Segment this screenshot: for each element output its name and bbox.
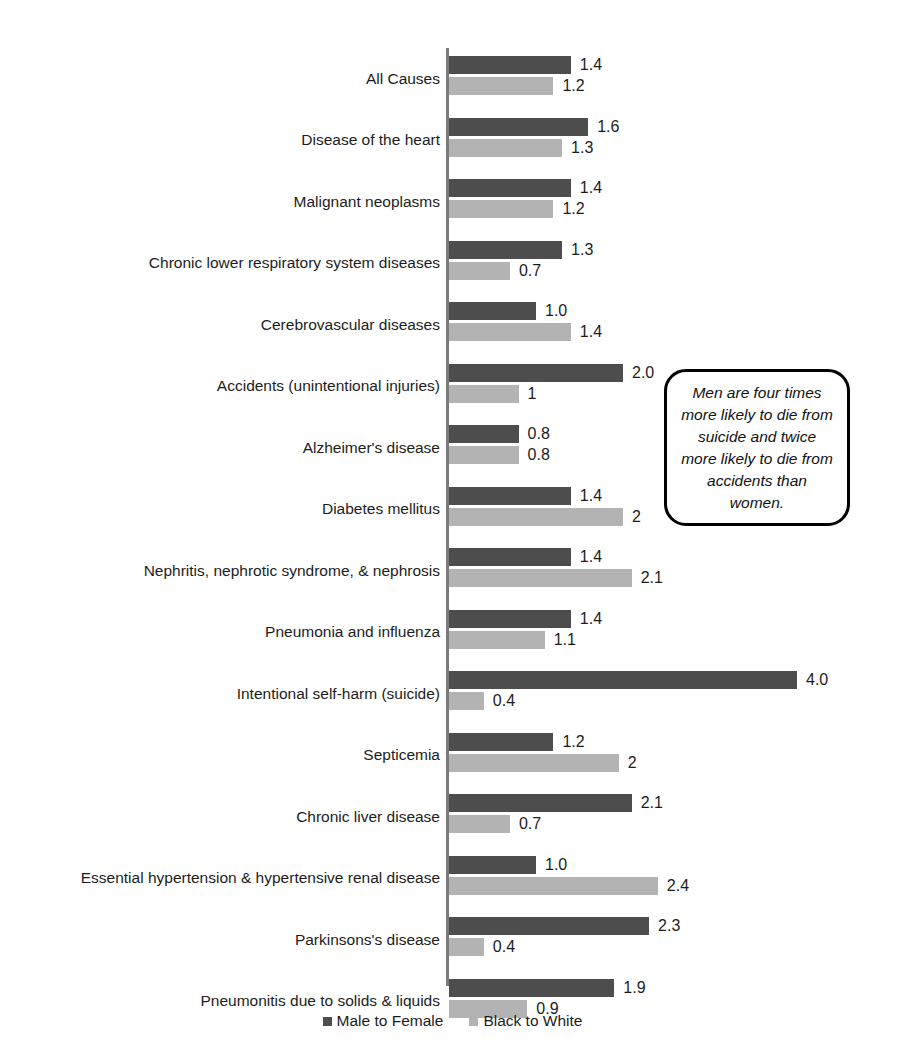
bar-value-label: 2.4 <box>658 877 689 895</box>
chart-row: Disease of the heart1.61.3 <box>0 110 905 172</box>
bar-male[interactable] <box>449 610 571 628</box>
bar-black[interactable] <box>449 877 658 895</box>
bar-value-label: 2 <box>619 754 637 772</box>
category-label: Alzheimer's disease <box>303 439 440 457</box>
bar-value-label: 1.9 <box>614 979 645 997</box>
chart-row: Intentional self-harm (suicide)4.00.4 <box>0 663 905 725</box>
bar-black[interactable] <box>449 508 623 526</box>
bar-value-label: 0.8 <box>519 446 550 464</box>
bar-male[interactable] <box>449 118 588 136</box>
chart-row: Chronic lower respiratory system disease… <box>0 233 905 295</box>
bar-male[interactable] <box>449 56 571 74</box>
chart-row: Malignant neoplasms1.41.2 <box>0 171 905 233</box>
bar-value-label: 1.0 <box>536 856 567 874</box>
bar-black[interactable] <box>449 385 519 403</box>
category-label: Nephritis, nephrotic syndrome, & nephros… <box>144 562 440 580</box>
bar-black[interactable] <box>449 569 632 587</box>
legend-label: Black to White <box>483 1012 582 1030</box>
category-label: Intentional self-harm (suicide) <box>237 685 440 703</box>
bar-value-label: 1.3 <box>562 139 593 157</box>
bar-value-label: 1.1 <box>545 631 576 649</box>
category-label: Essential hypertension & hypertensive re… <box>81 869 440 887</box>
bar-value-label: 0.7 <box>510 262 541 280</box>
chart-row: Cerebrovascular diseases1.01.4 <box>0 294 905 356</box>
bar-value-label: 1.2 <box>553 733 584 751</box>
bar-value-label: 1.4 <box>571 610 602 628</box>
bar-value-label: 1.6 <box>588 118 619 136</box>
bar-value-label: 1.4 <box>571 548 602 566</box>
category-label: Accidents (unintentional injuries) <box>217 377 440 395</box>
legend-swatch-icon <box>323 1017 332 1026</box>
category-label: Pneumonitis due to solids & liquids <box>200 992 440 1010</box>
bar-black[interactable] <box>449 631 545 649</box>
bar-male[interactable] <box>449 794 632 812</box>
chart-row: Nephritis, nephrotic syndrome, & nephros… <box>0 540 905 602</box>
legend-item-black-to-white[interactable]: Black to White <box>469 1012 582 1030</box>
bar-value-label: 1 <box>519 385 537 403</box>
bar-black[interactable] <box>449 754 619 772</box>
category-label: Malignant neoplasms <box>294 193 440 211</box>
bar-value-label: 2.0 <box>623 364 654 382</box>
bar-value-label: 1.4 <box>571 179 602 197</box>
bar-value-label: 1.2 <box>553 200 584 218</box>
bar-value-label: 4.0 <box>797 671 828 689</box>
bar-male[interactable] <box>449 179 571 197</box>
bar-value-label: 2.1 <box>632 794 663 812</box>
bar-male[interactable] <box>449 425 519 443</box>
category-label: Septicemia <box>363 746 440 764</box>
chart-row: Septicemia1.22 <box>0 725 905 787</box>
bar-black[interactable] <box>449 938 484 956</box>
legend-swatch-icon <box>469 1017 478 1026</box>
bar-black[interactable] <box>449 446 519 464</box>
ratio-bar-chart: All Causes1.41.2Disease of the heart1.61… <box>0 0 905 1063</box>
bar-male[interactable] <box>449 487 571 505</box>
legend-label: Male to Female <box>337 1012 444 1030</box>
bar-black[interactable] <box>449 815 510 833</box>
bar-value-label: 0.7 <box>510 815 541 833</box>
category-label: Disease of the heart <box>301 131 440 149</box>
bar-value-label: 1.4 <box>571 56 602 74</box>
bar-value-label: 0.4 <box>484 938 515 956</box>
bar-value-label: 2 <box>623 508 641 526</box>
bar-value-label: 2.3 <box>649 917 680 935</box>
category-label: Chronic liver disease <box>296 808 440 826</box>
bar-male[interactable] <box>449 302 536 320</box>
category-label: Pneumonia and influenza <box>265 623 440 641</box>
category-label: Chronic lower respiratory system disease… <box>149 254 440 272</box>
bar-male[interactable] <box>449 364 623 382</box>
bar-male[interactable] <box>449 733 553 751</box>
bar-black[interactable] <box>449 139 562 157</box>
bar-value-label: 0.4 <box>484 692 515 710</box>
bar-male[interactable] <box>449 671 797 689</box>
chart-rows: All Causes1.41.2Disease of the heart1.61… <box>0 48 905 1032</box>
category-label: All Causes <box>366 70 440 88</box>
bar-value-label: 0.8 <box>519 425 550 443</box>
bar-male[interactable] <box>449 548 571 566</box>
chart-row: Essential hypertension & hypertensive re… <box>0 848 905 910</box>
callout-text: Men are four times more likely to die fr… <box>667 382 847 514</box>
bar-black[interactable] <box>449 262 510 280</box>
chart-row: Parkinsons's disease2.30.4 <box>0 909 905 971</box>
chart-row: All Causes1.41.2 <box>0 48 905 110</box>
bar-male[interactable] <box>449 979 614 997</box>
legend-item-male-to-female[interactable]: Male to Female <box>323 1012 444 1030</box>
category-label: Parkinsons's disease <box>295 931 440 949</box>
bar-value-label: 1.4 <box>571 487 602 505</box>
bar-value-label: 2.1 <box>632 569 663 587</box>
chart-row: Pneumonia and influenza1.41.1 <box>0 602 905 664</box>
chart-row: Chronic liver disease2.10.7 <box>0 786 905 848</box>
bar-value-label: 1.0 <box>536 302 567 320</box>
bar-black[interactable] <box>449 77 553 95</box>
callout-box: Men are four times more likely to die fr… <box>664 369 850 526</box>
bar-black[interactable] <box>449 692 484 710</box>
bar-value-label: 1.4 <box>571 323 602 341</box>
category-label: Diabetes mellitus <box>322 500 440 518</box>
category-label: Cerebrovascular diseases <box>261 316 440 334</box>
bar-male[interactable] <box>449 856 536 874</box>
bar-value-label: 1.2 <box>553 77 584 95</box>
bar-value-label: 1.3 <box>562 241 593 259</box>
bar-male[interactable] <box>449 917 649 935</box>
bar-black[interactable] <box>449 323 571 341</box>
bar-male[interactable] <box>449 241 562 259</box>
bar-black[interactable] <box>449 200 553 218</box>
